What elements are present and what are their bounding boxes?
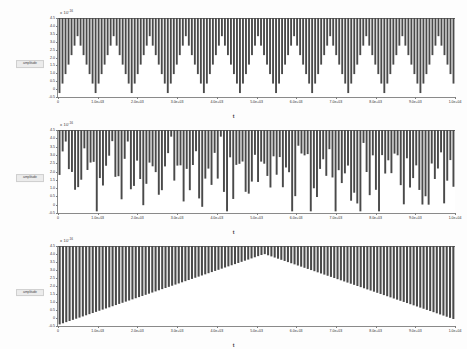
y-tick-label: 1.0	[50, 186, 55, 190]
y-tick-label: -0.5	[49, 95, 55, 99]
y-tick-mark	[56, 163, 58, 164]
y-tick-mark	[56, 196, 58, 197]
x-tick-label: 1.0e+03	[91, 100, 104, 104]
x-tick-mark	[455, 213, 456, 215]
y-tick-mark	[56, 246, 58, 247]
y-tick-label: 0.5	[50, 79, 55, 83]
x-tick-label: 0	[57, 329, 59, 333]
x-tick-label: 4.0e+03	[210, 329, 223, 333]
y-tick-label: 2.5	[50, 276, 55, 280]
y-tick-mark	[56, 188, 58, 189]
x-tick-label: 5.0e+03	[250, 100, 263, 104]
y-tick-mark	[56, 130, 58, 131]
x-axis-label-3: t	[0, 342, 467, 348]
y-tick-mark	[56, 18, 58, 19]
y-axis-label-3: amplitude	[16, 289, 44, 297]
y-tick-label: 2.0	[50, 284, 55, 288]
y-tick-label: 4.5	[50, 128, 55, 132]
y-tick-label: 1.0	[50, 300, 55, 304]
x-tick-label: 0	[57, 100, 59, 104]
y-tick-label: 3.0	[50, 268, 55, 272]
y-axis-label-2: amplitude	[16, 174, 44, 182]
x-tick-mark	[415, 97, 416, 99]
x-axis-label-2: t	[0, 229, 467, 235]
x-tick-label: 7.0e+03	[330, 329, 343, 333]
x-tick-mark	[137, 326, 138, 328]
x-tick-mark	[257, 97, 258, 99]
y-tick-label: 1.0	[50, 71, 55, 75]
x-tick-label: 1.0e+04	[449, 100, 462, 104]
x-tick-label: 2.0e+03	[131, 100, 144, 104]
figure-canvas: amplitude x 10-16 4.54.03.53.02.52.01.51…	[0, 0, 467, 349]
y-tick-mark	[56, 89, 58, 90]
y-tick-label: 1.5	[50, 63, 55, 67]
x-tick-label: 4.0e+03	[210, 216, 223, 220]
y-tick-label: -0.5	[49, 324, 55, 328]
plot-area-1	[58, 18, 455, 97]
bar-series-2	[58, 130, 455, 213]
x-tick-label: 7.0e+03	[330, 216, 343, 220]
x-tick-mark	[58, 97, 59, 99]
y-tick-label: 4.5	[50, 16, 55, 20]
x-tick-mark	[137, 213, 138, 215]
x-tick-label: 3.0e+03	[171, 329, 184, 333]
y-tick-label: 0.5	[50, 308, 55, 312]
x-tick-mark	[455, 97, 456, 99]
y-tick-label: 2.5	[50, 161, 55, 165]
x-tick-mark	[217, 326, 218, 328]
x-tick-mark	[376, 213, 377, 215]
y-tick-label: 1.5	[50, 178, 55, 182]
y-tick-mark	[56, 58, 58, 59]
y-tick-label: 0.5	[50, 194, 55, 198]
bar-series-1	[58, 18, 455, 97]
x-tick-mark	[217, 97, 218, 99]
y-tick-mark	[56, 50, 58, 51]
y-tick-label: 4.0	[50, 136, 55, 140]
y-tick-label: 3.5	[50, 260, 55, 264]
x-tick-mark	[296, 97, 297, 99]
x-tick-label: 6.0e+03	[290, 100, 303, 104]
y-tick-mark	[56, 26, 58, 27]
x-tick-label: 4.0e+03	[210, 100, 223, 104]
bar-series-3	[58, 246, 455, 326]
x-tick-label: 8.0e+03	[369, 216, 382, 220]
y-tick-label: 2.0	[50, 56, 55, 60]
x-tick-mark	[257, 326, 258, 328]
y-tick-mark	[56, 278, 58, 279]
x-tick-label: 8.0e+03	[369, 329, 382, 333]
x-tick-label: 9.0e+03	[409, 329, 422, 333]
y-tick-label: 0	[53, 87, 55, 91]
y-tick-label: 2.5	[50, 48, 55, 52]
x-tick-label: 6.0e+03	[290, 216, 303, 220]
x-tick-mark	[58, 326, 59, 328]
y-tick-mark	[56, 318, 58, 319]
x-tick-mark	[336, 97, 337, 99]
y-tick-label: 0	[53, 316, 55, 320]
x-tick-mark	[98, 213, 99, 215]
y-tick-label: 4.0	[50, 24, 55, 28]
axes-3: x 10-16 4.54.03.53.02.52.01.51.00.50-0.5…	[57, 246, 455, 327]
x-tick-mark	[376, 326, 377, 328]
x-tick-mark	[177, 326, 178, 328]
x-tick-mark	[376, 97, 377, 99]
y-tick-label: 4.5	[50, 244, 55, 248]
x-tick-label: 9.0e+03	[409, 100, 422, 104]
x-tick-label: 5.0e+03	[250, 329, 263, 333]
x-tick-label: 0	[57, 216, 59, 220]
x-tick-mark	[415, 326, 416, 328]
x-tick-label: 1.0e+04	[449, 329, 462, 333]
y-tick-mark	[56, 81, 58, 82]
y-tick-label: 3.0	[50, 153, 55, 157]
y-tick-mark	[56, 262, 58, 263]
x-tick-mark	[177, 97, 178, 99]
y-axis-label-1: amplitude	[16, 60, 44, 68]
x-tick-mark	[177, 213, 178, 215]
y-tick-label: 3.5	[50, 145, 55, 149]
x-tick-label: 1.0e+03	[91, 329, 104, 333]
x-tick-mark	[336, 213, 337, 215]
x-tick-mark	[217, 213, 218, 215]
x-tick-label: 1.0e+04	[449, 216, 462, 220]
x-tick-label: 9.0e+03	[409, 216, 422, 220]
y-exponent-label-1: x 10-16	[60, 9, 73, 15]
x-tick-mark	[98, 97, 99, 99]
